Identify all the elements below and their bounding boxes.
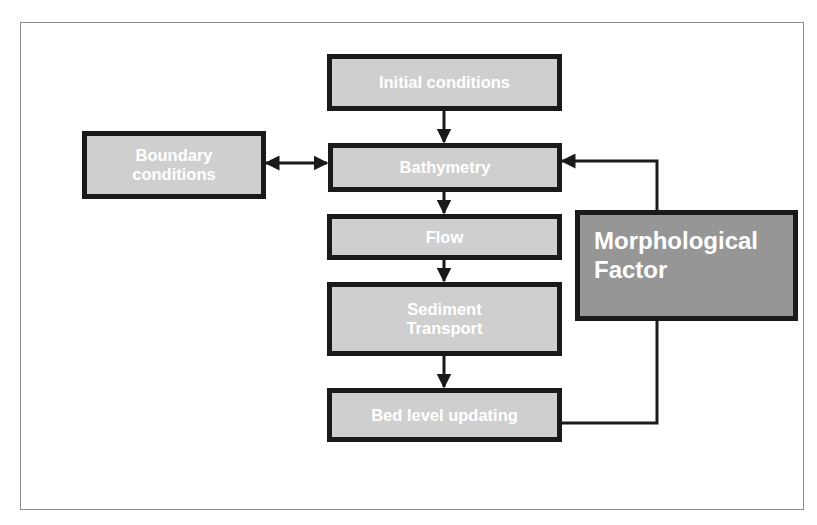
node-label: Bed level updating (371, 406, 518, 425)
node-morphological-factor: Morphological Factor (575, 210, 798, 321)
arrow-morph-to-bathymetry (562, 161, 657, 210)
node-label-line2: Transport (406, 319, 482, 338)
node-bathymetry: Bathymetry (328, 143, 562, 192)
node-label: Bathymetry (400, 158, 491, 177)
node-label-line2: Factor (594, 256, 667, 285)
node-initial-conditions: Initial conditions (327, 54, 562, 111)
node-label-line1: Boundary (135, 146, 212, 165)
node-boundary-conditions: Boundary conditions (82, 131, 266, 199)
node-label: Initial conditions (379, 73, 510, 92)
node-bed-level-updating: Bed level updating (327, 388, 562, 442)
line-bed-to-morph (561, 320, 657, 423)
node-label-line1: Sediment (407, 300, 481, 319)
node-label: Flow (426, 228, 464, 247)
node-label-line2: conditions (132, 165, 215, 184)
node-flow: Flow (327, 214, 562, 260)
node-sediment-transport: Sediment Transport (327, 282, 562, 356)
node-label-line1: Morphological (594, 227, 758, 256)
